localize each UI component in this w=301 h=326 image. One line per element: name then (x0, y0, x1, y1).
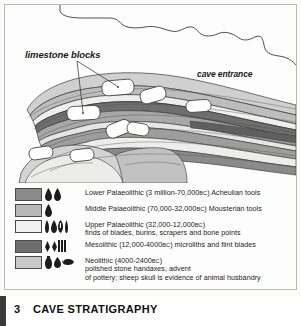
flint-blade-icon (58, 240, 66, 252)
legend-line1b: ) Mousterian tools (204, 204, 261, 213)
legend-text-neolithic: Neolithic (4000-2400BC) polished stone h… (79, 255, 292, 282)
legend-text-lower-palaeolithic: Lower Palaeolithic (3 million-70,000BC) … (79, 187, 292, 197)
legend-icons-mesolithic (42, 239, 79, 254)
legend-bc: BC (199, 190, 207, 196)
label-cave-entrance: cave entrance (197, 69, 252, 79)
label-limestone-blocks: limestone blocks (25, 49, 100, 60)
microlith-icon (45, 241, 50, 252)
legend: Lower Palaeolithic (3 million-70,000BC) … (5, 183, 296, 290)
cave-cross-section-diagram (5, 5, 296, 183)
legend-swatch-middle-palaeolithic (15, 204, 42, 217)
legend-line1: Lower Palaeolithic (3 million-70,000 (85, 188, 199, 197)
limestone-block (69, 148, 94, 162)
handaxe-icon (45, 204, 52, 217)
burin-icon (58, 220, 63, 233)
handaxe-icon (54, 188, 61, 201)
legend-icons-upper-palaeolithic (42, 219, 79, 234)
sheep-skull-icon (62, 258, 74, 266)
figure-title-bar: 3 CAVE STRATIGRAPHY (0, 296, 301, 326)
bone-point-icon (65, 220, 68, 233)
legend-line2: finds of blades, burins, scrapers and bo… (85, 229, 292, 237)
legend-line1b: ) Acheulian tools (207, 188, 260, 197)
legend-bc: BC (162, 242, 170, 248)
legend-text-mesolithic: Mesolithic (12,000-4000BC) microliths an… (79, 239, 292, 249)
polished-axe-icon (54, 257, 61, 268)
legend-swatch-neolithic (15, 256, 42, 269)
pottery-icon (45, 256, 52, 269)
legend-bc: BC (195, 222, 203, 228)
limestone-block (186, 99, 212, 113)
legend-text-upper-palaeolithic: Upper Palaeolithic (32,000-12,000BC) fin… (79, 219, 292, 238)
point-icon (51, 220, 57, 233)
legend-icons-lower-palaeolithic (42, 187, 79, 202)
legend-line1b: ) microliths and flint blades (170, 240, 256, 249)
page-title: CAVE STRATIGRAPHY (33, 303, 158, 315)
legend-line1: Middle Palaeolithic (70,000-32,000 (85, 204, 196, 213)
legend-text-middle-palaeolithic: Middle Palaeolithic (70,000-32,000BC) Mo… (79, 203, 292, 213)
legend-bc: BC (152, 258, 160, 264)
legend-line1: Mesolithic (12,000-4000 (85, 240, 162, 249)
legend-row-lower-palaeolithic: Lower Palaeolithic (3 million-70,000BC) … (5, 187, 296, 202)
legend-line3: of pottery; sheep skull is evidence of a… (85, 274, 292, 282)
legend-icons-middle-palaeolithic (42, 203, 79, 218)
legend-swatch-lower-palaeolithic (15, 188, 42, 201)
legend-row-middle-palaeolithic: Middle Palaeolithic (70,000-32,000BC) Mo… (5, 203, 296, 218)
cave-stratigraphy-figure-page: limestone blocks cave entrance Lower Pal… (0, 0, 301, 326)
legend-row-neolithic: Neolithic (4000-2400BC) polished stone h… (5, 255, 296, 282)
microlith-icon (52, 241, 57, 252)
blade-icon (45, 220, 49, 233)
title-rule (0, 296, 6, 326)
legend-swatch-upper-palaeolithic (15, 220, 42, 233)
figure-number: 3 (14, 303, 20, 315)
legend-icons-neolithic (42, 255, 79, 270)
legend-swatch-mesolithic (15, 240, 42, 253)
figure-panel: limestone blocks cave entrance Lower Pal… (4, 4, 297, 290)
handaxe-icon (45, 188, 52, 201)
legend-row-mesolithic: Mesolithic (12,000-4000BC) microliths an… (5, 239, 296, 254)
legend-row-upper-palaeolithic: Upper Palaeolithic (32,000-12,000BC) fin… (5, 219, 296, 238)
